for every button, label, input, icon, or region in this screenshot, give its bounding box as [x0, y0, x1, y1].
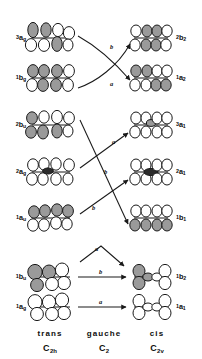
orbital-label-trans-3: 2ag [2, 168, 26, 177]
arrow-label-4: b [92, 205, 95, 211]
arrow-label-2: a [112, 139, 115, 145]
label-sub: 2 [183, 76, 186, 82]
arrow-label-0: b [110, 44, 113, 50]
point-group-sub: 2 [106, 348, 109, 354]
label-sub: u [23, 216, 26, 222]
orbital-trans-2bu [26, 110, 75, 139]
point-group-sub: 2h [50, 348, 57, 354]
orbital-label-cis-3: 2a1 [176, 168, 202, 177]
orbital-cis-1a1 [133, 294, 171, 319]
orbital-label-cis-5: 1b2 [176, 273, 202, 282]
point-group-cis: C2v [124, 344, 190, 354]
orbital-label-trans-5: 1bu [2, 273, 26, 282]
arrow-label-1: a [110, 81, 113, 87]
arrow-curve-b-up [78, 44, 130, 88]
arrow-label-3: b [104, 169, 107, 175]
orbital-label-cis-4: 1b1 [176, 214, 202, 223]
orbital-label-cis-1: 1a2 [176, 74, 202, 83]
label-sub: 2 [183, 275, 186, 281]
label-sub: g [23, 305, 26, 311]
orbital-label-trans-4: 1au [2, 214, 26, 223]
arrow-arched-a [80, 246, 124, 266]
orbital-label-cis-2: 3a1 [176, 121, 202, 130]
orbital-cis-1b2 [133, 264, 171, 289]
arrow-straight-a-up-upper [80, 133, 128, 168]
arrow-label-7: a [99, 299, 102, 305]
arrow-label-6: b [99, 269, 102, 275]
orbital-trans-1bu [28, 263, 71, 292]
label-sub: g [23, 36, 26, 42]
label-sub: 1 [183, 216, 186, 222]
orbital-trans-1au [28, 204, 74, 231]
orbital-cis-1b1 [130, 205, 172, 231]
orbital-cis-2b2 [130, 25, 172, 51]
arrow-label-5: a [95, 246, 98, 252]
orbital-label-cis-6: 1a1 [176, 303, 202, 312]
orbital-trans-2ag [27, 158, 75, 185]
label-sub: 2 [183, 36, 186, 42]
orbital-label-trans-0: 3ag [2, 34, 26, 43]
label-sub: u [23, 275, 26, 281]
orbital-trans-3ag [25, 22, 74, 51]
label-sub: 1 [183, 123, 186, 129]
orbital-label-cis-0: 2b2 [176, 34, 202, 43]
column-caption-cis: cis [124, 330, 190, 338]
orbital-label-trans-2: 2bu [2, 121, 26, 130]
label-sub: g [23, 76, 26, 82]
label-sub: u [23, 123, 26, 129]
orbital-label-trans-6: 1ag [2, 303, 26, 312]
mo-correlation-diagram: 3ag 1bg 2bu 2ag 1au 1bu 1ag 2b2 1a2 3a1 … [0, 0, 202, 359]
orbital-trans-1bg [27, 65, 75, 92]
point-group-letter: C [99, 343, 106, 353]
point-group-sub: 2v [157, 348, 164, 354]
orbital-label-trans-1: 1bg [2, 74, 26, 83]
orbital-trans-1ag [28, 293, 70, 321]
point-group-letter: C [43, 343, 50, 353]
label-sub: g [23, 170, 26, 176]
orbital-cis-2a1 [130, 159, 172, 185]
label-sub: 1 [183, 305, 186, 311]
orbital-cis-3a1 [130, 112, 172, 138]
orbital-cis-1a2 [130, 65, 172, 91]
label-sub: 1 [183, 170, 186, 176]
